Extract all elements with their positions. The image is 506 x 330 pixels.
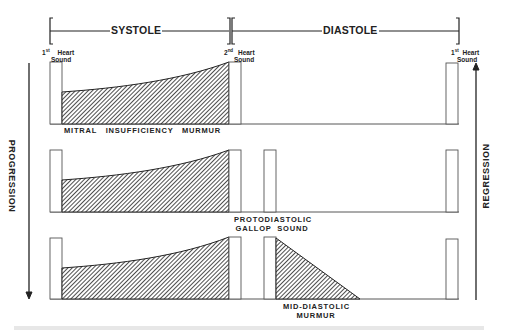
first-heart-sound-label-right: 1st Heart Sound <box>451 47 479 63</box>
mid-diastolic-murmur-label: MID-DIASTOLIC MURMUR <box>283 302 349 320</box>
diastole-label: DIASTOLE <box>322 24 379 36</box>
row-protodiastolic-gallop <box>50 150 459 212</box>
second-heart-sound-label: 2nd Heart Sound <box>224 47 255 63</box>
first-heart-sound-label-left: 1st Heart Sound <box>42 47 74 63</box>
mitral-insufficiency-murmur-label: MITRAL INSUFFICIENCY MURMUR <box>64 126 221 135</box>
regression-label: REGRESSION <box>481 143 491 208</box>
figure-caption-fragment <box>14 326 484 330</box>
systole-label: SYSTOLE <box>110 24 162 36</box>
row-mid-diastolic-murmur <box>50 237 459 299</box>
protodiastolic-gallop-label: PROTODIASTOLIC GALLOP SOUND <box>234 215 310 233</box>
progression-arrow <box>26 63 32 299</box>
row-mitral-insufficiency <box>50 62 459 124</box>
progression-label: PROGRESSION <box>7 140 17 213</box>
regression-arrow <box>473 63 479 300</box>
